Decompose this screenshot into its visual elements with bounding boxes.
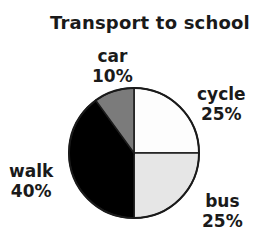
slice-value-bus: 25% [202,211,243,231]
slice-name-car: car [92,46,133,66]
slice-label-car: car 10% [92,46,133,86]
slice-name-bus: bus [202,191,243,211]
slice-value-walk: 40% [9,181,53,201]
slice-label-bus: bus 25% [202,191,243,231]
slice-name-walk: walk [9,161,53,181]
slice-name-cycle: cycle [197,84,246,104]
slice-label-cycle: cycle 25% [197,84,246,124]
slice-label-walk: walk 40% [9,161,53,201]
slice-value-car: 10% [92,66,133,86]
slice-value-cycle: 25% [197,104,246,124]
